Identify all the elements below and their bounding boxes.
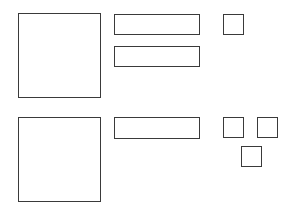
group-2-bar-1	[114, 117, 200, 139]
group-1-small-square	[223, 14, 244, 35]
group-1-bar-1	[114, 14, 200, 35]
group-2-small-square-3	[241, 146, 262, 167]
group-1-bar-2	[114, 46, 200, 67]
group-2-small-square-2	[257, 117, 278, 138]
group-2-small-square-1	[223, 117, 244, 138]
group-2-large-square	[18, 117, 101, 202]
group-1-large-square	[18, 13, 101, 98]
